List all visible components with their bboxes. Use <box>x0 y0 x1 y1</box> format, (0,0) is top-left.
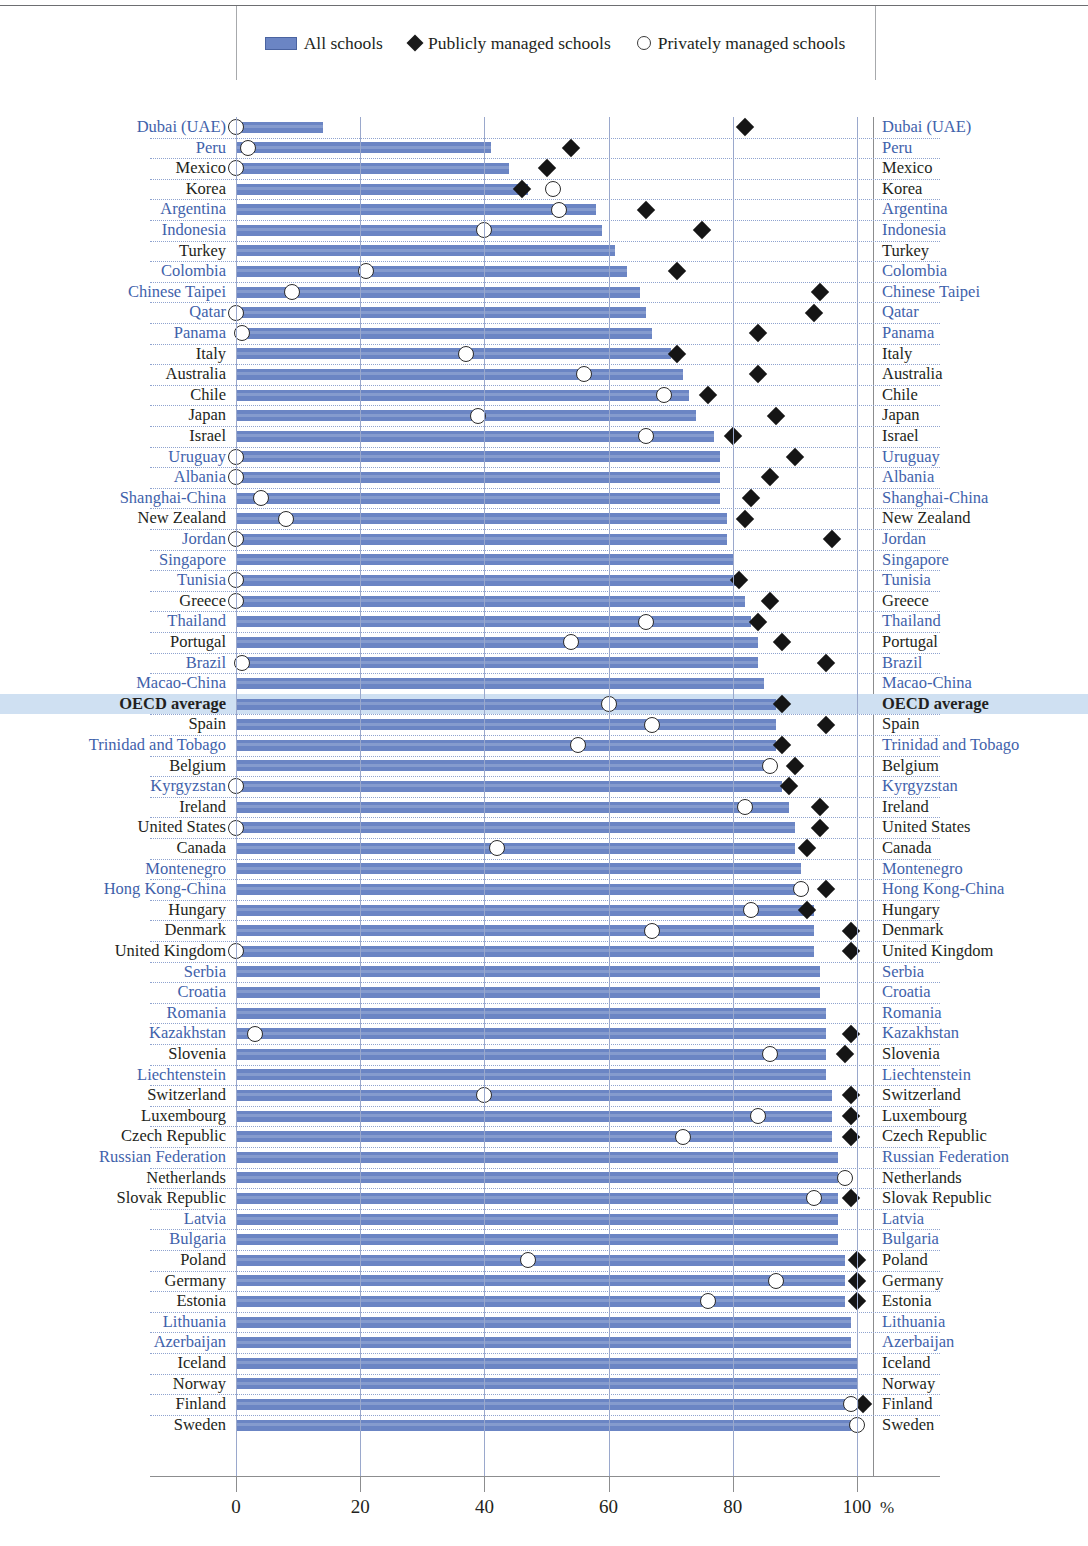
table-row[interactable]: OECD averageOECD average <box>0 694 1088 715</box>
row-label-right[interactable]: United Kingdom <box>882 941 1087 962</box>
row-label-right[interactable]: Indonesia <box>882 220 1087 241</box>
marker-privately-managed[interactable] <box>700 1293 716 1309</box>
row-label-left[interactable]: Czech Republic <box>0 1126 226 1147</box>
table-row[interactable]: Slovak RepublicSlovak Republic <box>0 1188 1088 1209</box>
row-label-right[interactable]: Denmark <box>882 920 1087 941</box>
marker-privately-managed[interactable] <box>240 140 256 156</box>
row-label-right[interactable]: Sweden <box>882 1415 1087 1436</box>
table-row[interactable]: FinlandFinland <box>0 1394 1088 1415</box>
bar-all-schools[interactable] <box>236 225 602 236</box>
row-label-left[interactable]: Albania <box>0 467 226 488</box>
row-label-right[interactable]: Trinidad and Tobago <box>882 735 1087 756</box>
row-label-left[interactable]: Estonia <box>0 1291 226 1312</box>
table-row[interactable]: United StatesUnited States <box>0 817 1088 838</box>
row-label-left[interactable]: Luxembourg <box>0 1106 226 1127</box>
bar-all-schools[interactable] <box>236 410 696 421</box>
table-row[interactable]: Macao-ChinaMacao-China <box>0 673 1088 694</box>
row-label-right[interactable]: Finland <box>882 1394 1087 1415</box>
marker-privately-managed[interactable] <box>638 614 654 630</box>
row-label-right[interactable]: Mexico <box>882 158 1087 179</box>
marker-privately-managed[interactable] <box>762 1046 778 1062</box>
table-row[interactable]: TurkeyTurkey <box>0 241 1088 262</box>
table-row[interactable]: PanamaPanama <box>0 323 1088 344</box>
bar-all-schools[interactable] <box>236 822 795 833</box>
table-row[interactable]: IcelandIceland <box>0 1353 1088 1374</box>
row-label-left[interactable]: Bulgaria <box>0 1229 226 1250</box>
row-label-left[interactable]: Slovenia <box>0 1044 226 1065</box>
bar-all-schools[interactable] <box>236 699 776 710</box>
row-label-left[interactable]: Lithuania <box>0 1312 226 1333</box>
bar-all-schools[interactable] <box>236 1255 845 1266</box>
row-label-right[interactable]: Greece <box>882 591 1087 612</box>
marker-privately-managed[interactable] <box>545 181 561 197</box>
bar-all-schools[interactable] <box>236 637 758 648</box>
bar-all-schools[interactable] <box>236 575 739 586</box>
row-label-left[interactable]: Italy <box>0 344 226 365</box>
table-row[interactable]: KoreaKorea <box>0 179 1088 200</box>
row-label-right[interactable]: Brazil <box>882 653 1087 674</box>
table-row[interactable]: BulgariaBulgaria <box>0 1229 1088 1250</box>
row-label-left[interactable]: Netherlands <box>0 1168 226 1189</box>
row-label-right[interactable]: Iceland <box>882 1353 1087 1374</box>
table-row[interactable]: SwedenSweden <box>0 1415 1088 1436</box>
row-label-right[interactable]: Estonia <box>882 1291 1087 1312</box>
marker-privately-managed[interactable] <box>458 346 474 362</box>
bar-all-schools[interactable] <box>236 760 770 771</box>
bar-all-schools[interactable] <box>236 925 814 936</box>
row-label-left[interactable]: Indonesia <box>0 220 226 241</box>
bar-all-schools[interactable] <box>236 1028 826 1039</box>
row-label-right[interactable]: Liechtenstein <box>882 1065 1087 1086</box>
table-row[interactable]: LiechtensteinLiechtenstein <box>0 1065 1088 1086</box>
row-label-right[interactable]: Serbia <box>882 962 1087 983</box>
marker-privately-managed[interactable] <box>762 758 778 774</box>
row-label-left[interactable]: Brazil <box>0 653 226 674</box>
bar-all-schools[interactable] <box>236 122 323 133</box>
row-label-right[interactable]: Lithuania <box>882 1312 1087 1333</box>
row-label-left[interactable]: Belgium <box>0 756 226 777</box>
table-row[interactable]: CanadaCanada <box>0 838 1088 859</box>
row-label-right[interactable]: Belgium <box>882 756 1087 777</box>
table-row[interactable]: JapanJapan <box>0 405 1088 426</box>
row-label-left[interactable]: Romania <box>0 1003 226 1024</box>
table-row[interactable]: PortugalPortugal <box>0 632 1088 653</box>
row-label-left[interactable]: Switzerland <box>0 1085 226 1106</box>
table-row[interactable]: Hong Kong-ChinaHong Kong-China <box>0 879 1088 900</box>
bar-all-schools[interactable] <box>236 266 627 277</box>
row-label-right[interactable]: Slovak Republic <box>882 1188 1087 1209</box>
bar-all-schools[interactable] <box>236 678 764 689</box>
bar-all-schools[interactable] <box>236 204 596 215</box>
table-row[interactable]: Czech RepublicCzech Republic <box>0 1126 1088 1147</box>
row-label-right[interactable]: Montenegro <box>882 859 1087 880</box>
row-label-left[interactable]: Norway <box>0 1374 226 1395</box>
row-label-right[interactable]: Singapore <box>882 550 1087 571</box>
row-label-left[interactable]: Germany <box>0 1271 226 1292</box>
bar-all-schools[interactable] <box>236 348 671 359</box>
row-label-right[interactable]: Israel <box>882 426 1087 447</box>
bar-all-schools[interactable] <box>236 1296 845 1307</box>
marker-privately-managed[interactable] <box>806 1190 822 1206</box>
table-row[interactable]: AustraliaAustralia <box>0 364 1088 385</box>
marker-privately-managed[interactable] <box>576 366 592 382</box>
row-label-left[interactable]: Poland <box>0 1250 226 1271</box>
row-label-left[interactable]: Qatar <box>0 302 226 323</box>
row-label-right[interactable]: Romania <box>882 1003 1087 1024</box>
row-label-left[interactable]: Slovak Republic <box>0 1188 226 1209</box>
row-label-right[interactable]: Slovenia <box>882 1044 1087 1065</box>
row-label-right[interactable]: Turkey <box>882 241 1087 262</box>
bar-all-schools[interactable] <box>236 905 814 916</box>
row-label-right[interactable]: Luxembourg <box>882 1106 1087 1127</box>
row-label-left[interactable]: Ireland <box>0 797 226 818</box>
marker-privately-managed[interactable] <box>743 902 759 918</box>
row-label-right[interactable]: Norway <box>882 1374 1087 1395</box>
bar-all-schools[interactable] <box>236 451 720 462</box>
row-label-left[interactable]: Finland <box>0 1394 226 1415</box>
table-row[interactable]: MontenegroMontenegro <box>0 859 1088 880</box>
row-label-right[interactable]: Panama <box>882 323 1087 344</box>
row-label-right[interactable]: Kyrgyzstan <box>882 776 1087 797</box>
row-label-right[interactable]: Russian Federation <box>882 1147 1087 1168</box>
row-label-right[interactable]: Albania <box>882 467 1087 488</box>
row-label-left[interactable]: Panama <box>0 323 226 344</box>
bar-all-schools[interactable] <box>236 863 801 874</box>
table-row[interactable]: BrazilBrazil <box>0 653 1088 674</box>
bar-all-schools[interactable] <box>236 307 646 318</box>
